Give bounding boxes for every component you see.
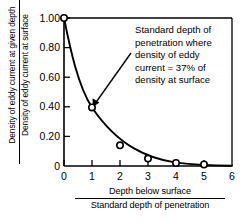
- eddy-current-decay-chart: Density of eddy current at given depth D…: [0, 0, 250, 224]
- data-point-marker: [173, 160, 179, 166]
- data-point-marker: [145, 155, 151, 161]
- annotation-line-3: density of eddy: [135, 49, 200, 60]
- annotation-line-4: current = 37% of: [135, 62, 206, 73]
- x-tick-label-6: 6: [229, 170, 235, 182]
- data-point-marker: [201, 161, 207, 167]
- x-axis-fraction-bar: [75, 198, 225, 199]
- data-point-marker: [117, 142, 123, 148]
- x-tick-label-1: 1: [89, 170, 95, 182]
- y-tick-label-0.80: 0.80: [40, 41, 61, 53]
- x-tick-label-0: 0: [61, 170, 67, 182]
- x-axis-label-denominator: Standard depth of penetration: [91, 200, 210, 211]
- x-tick-label-3: 3: [145, 170, 151, 182]
- annotation-line-1: Standard depth of: [135, 24, 212, 35]
- x-tick-label-2: 2: [117, 170, 123, 182]
- annotation-line-5: density at surface: [135, 74, 210, 85]
- y-tick-label-0.60: 0.60: [40, 71, 61, 83]
- annotation-leader-line: [96, 53, 132, 103]
- data-point-marker: [61, 15, 67, 21]
- y-tick-label-0.40: 0.40: [40, 100, 61, 112]
- x-axis-label-numerator: Depth below surface: [109, 186, 191, 197]
- x-tick-label-4: 4: [173, 170, 179, 182]
- x-axis-label: Depth below surface Standard depth of pe…: [62, 186, 238, 211]
- y-tick-label-0: 0: [54, 160, 60, 172]
- annotation-line-2: penetration where: [135, 37, 212, 48]
- x-tick-label-5: 5: [201, 170, 207, 182]
- data-point-marker: [89, 104, 95, 110]
- y-tick-label-0.20: 0.20: [40, 130, 61, 142]
- standard-depth-annotation: Standard depth of penetration where dens…: [135, 24, 212, 85]
- y-tick-label-1.00: 1.00: [40, 12, 61, 24]
